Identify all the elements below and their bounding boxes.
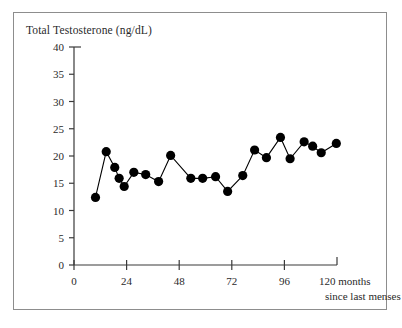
data-point bbox=[186, 174, 195, 183]
data-point bbox=[300, 137, 309, 146]
x-tick-0: 0 bbox=[71, 275, 77, 287]
y-tick-15: 15 bbox=[34, 177, 64, 189]
data-point bbox=[262, 153, 271, 162]
y-tick-10: 10 bbox=[34, 205, 64, 217]
x-tick-24: 24 bbox=[121, 275, 132, 287]
data-point bbox=[332, 139, 341, 148]
chart-figure: Total Testosterone (ng/dL) 0510152025303… bbox=[0, 0, 402, 328]
x-axis-title-line2: since last menses bbox=[325, 290, 401, 302]
y-tick-5: 5 bbox=[34, 232, 64, 244]
y-tick-35: 35 bbox=[34, 68, 64, 80]
y-tick-30: 30 bbox=[34, 96, 64, 108]
data-point bbox=[211, 172, 220, 181]
y-tick-20: 20 bbox=[34, 150, 64, 162]
y-tick-0: 0 bbox=[34, 259, 64, 271]
data-point bbox=[91, 193, 100, 202]
data-point bbox=[308, 142, 317, 151]
data-point bbox=[198, 174, 207, 183]
data-point bbox=[129, 168, 138, 177]
data-point bbox=[276, 133, 285, 142]
data-point bbox=[120, 182, 129, 191]
data-point bbox=[166, 151, 175, 160]
y-tick-25: 25 bbox=[34, 123, 64, 135]
data-point bbox=[250, 145, 259, 154]
y-tick-40: 40 bbox=[34, 41, 64, 53]
data-point bbox=[317, 148, 326, 157]
x-tick-72: 72 bbox=[226, 275, 237, 287]
x-tick-96: 96 bbox=[279, 275, 290, 287]
data-point bbox=[286, 154, 295, 163]
x-tick-48: 48 bbox=[174, 275, 185, 287]
series-line bbox=[95, 137, 336, 197]
data-point bbox=[141, 170, 150, 179]
data-point bbox=[115, 174, 124, 183]
data-point bbox=[102, 147, 111, 156]
data-point bbox=[238, 171, 247, 180]
data-point bbox=[110, 163, 119, 172]
x-axis-title-line1: 120 months bbox=[319, 275, 371, 287]
data-point bbox=[223, 187, 232, 196]
data-point bbox=[154, 177, 163, 186]
